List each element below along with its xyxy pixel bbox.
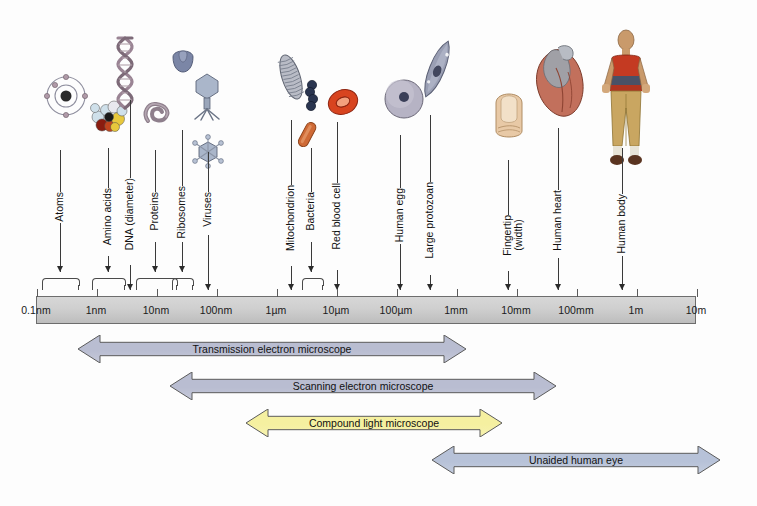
scale-tick-label: 100µm bbox=[380, 304, 413, 316]
scale-tick bbox=[157, 289, 158, 297]
protein-illustration bbox=[140, 95, 174, 129]
scale-tick-label: 1nm bbox=[86, 304, 107, 316]
scale-tick bbox=[697, 289, 698, 297]
brace-stem bbox=[136, 285, 137, 290]
leader-arrowhead bbox=[127, 284, 133, 290]
scale-tick-label: 10µm bbox=[323, 304, 350, 316]
protozoan-illustration bbox=[420, 38, 454, 100]
specimen-label: Atoms bbox=[54, 192, 65, 222]
scale-tick bbox=[577, 289, 578, 297]
range-brace bbox=[302, 278, 324, 286]
brace-stem bbox=[322, 285, 323, 290]
scale-tick-label: 10mm bbox=[501, 304, 531, 316]
specimen-label: Bacteria bbox=[305, 192, 316, 231]
scale-tick bbox=[217, 289, 218, 297]
scale-tick-label: 100mm bbox=[558, 304, 594, 316]
leader-arrowhead bbox=[308, 266, 314, 272]
range-arrow: Transmission electron microscope bbox=[78, 335, 466, 363]
range-arrow: Compound light microscope bbox=[246, 409, 502, 437]
bacteria-rod-illustration bbox=[296, 120, 320, 150]
mitochondrion-illustration bbox=[278, 52, 304, 102]
dna-helix-illustration bbox=[112, 36, 138, 108]
fingertip-illustration bbox=[492, 85, 526, 141]
brace-stem bbox=[172, 285, 173, 290]
leader-arrowhead bbox=[288, 284, 294, 290]
scale-tick bbox=[517, 289, 518, 297]
scale-tick bbox=[637, 289, 638, 297]
leader-arrowhead bbox=[152, 266, 158, 272]
ribosome-illustration bbox=[168, 45, 198, 75]
range-arrow-label: Transmission electron microscope bbox=[193, 343, 352, 355]
leader-arrowhead bbox=[619, 284, 625, 290]
human-egg-illustration bbox=[383, 78, 425, 120]
heart-illustration bbox=[528, 42, 590, 122]
brace-stem bbox=[42, 285, 43, 290]
brace-stem bbox=[124, 285, 125, 290]
range-brace bbox=[172, 278, 194, 286]
specimen-label-line: (width) bbox=[513, 215, 524, 256]
scale-tick bbox=[457, 289, 458, 297]
range-arrow-label: Compound light microscope bbox=[309, 417, 439, 429]
scale-tick-label: 1m bbox=[629, 304, 644, 316]
brace-stem bbox=[92, 285, 93, 290]
leader-arrowhead bbox=[505, 284, 511, 290]
brace-stem bbox=[78, 285, 79, 290]
specimen-label: Fingertip(width) bbox=[502, 215, 524, 256]
scale-figure: AtomsAmino acidsDNA (diameter)ProteinsRi… bbox=[0, 0, 757, 506]
range-arrow-label: Unaided human eye bbox=[529, 454, 623, 466]
specimen-label: Human body bbox=[616, 194, 627, 254]
scale-tick-label: 10nm bbox=[143, 304, 170, 316]
range-arrow: Scanning electron microscope bbox=[170, 372, 556, 400]
specimen-label: Human egg bbox=[394, 188, 405, 242]
scale-tick-label: 0.1nm bbox=[21, 304, 51, 316]
leader-arrowhead bbox=[179, 266, 185, 272]
range-arrow-label: Scanning electron microscope bbox=[293, 380, 434, 392]
scale-tick bbox=[277, 289, 278, 297]
scale-tick bbox=[397, 289, 398, 297]
specimen-label: Large protozoan bbox=[424, 182, 435, 258]
specimen-label: Mitochondrion bbox=[285, 185, 296, 251]
specimen-label: Proteins bbox=[149, 192, 160, 231]
specimen-label: Viruses bbox=[202, 192, 213, 227]
scale-bar bbox=[36, 296, 696, 324]
scale-tick-label: 1µm bbox=[266, 304, 287, 316]
bacteria-cocci-illustration bbox=[303, 80, 321, 112]
range-brace bbox=[92, 278, 126, 286]
scale-tick-label: 10m bbox=[686, 304, 707, 316]
scale-tick bbox=[37, 289, 38, 297]
specimen-label: Ribosomes bbox=[176, 186, 187, 239]
leader-arrowhead bbox=[105, 266, 111, 272]
leader-arrowhead bbox=[555, 284, 561, 290]
scale-tick-label: 1mm bbox=[444, 304, 468, 316]
scale-tick bbox=[97, 289, 98, 297]
specimen-label: Red blood cell bbox=[331, 183, 342, 250]
range-arrow: Unaided human eye bbox=[432, 446, 720, 474]
range-brace bbox=[42, 278, 80, 286]
brace-stem bbox=[192, 285, 193, 290]
leader-arrowhead bbox=[205, 284, 211, 290]
specimen-label: Human heart bbox=[552, 190, 563, 251]
scale-tick bbox=[337, 289, 338, 297]
scale-tick-label: 100nm bbox=[200, 304, 233, 316]
human-body-illustration bbox=[596, 28, 656, 168]
brace-stem bbox=[302, 285, 303, 290]
bacteriophage-illustration bbox=[190, 72, 224, 120]
atom-illustration bbox=[45, 75, 87, 117]
specimen-label: Amino acids bbox=[102, 188, 113, 245]
red-blood-cell-illustration bbox=[325, 85, 361, 119]
specimen-label: DNA (diameter) bbox=[124, 178, 135, 250]
leader-arrowhead bbox=[427, 284, 433, 290]
leader-arrowhead bbox=[57, 266, 63, 272]
